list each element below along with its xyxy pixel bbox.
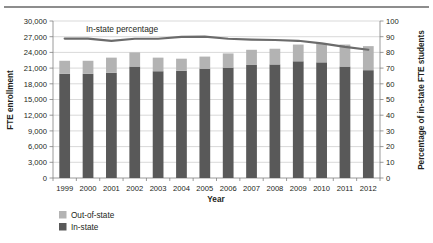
y-tick-label-left: 3,000: [28, 158, 47, 167]
legend-swatch-out-of-state: [59, 211, 67, 219]
right-axis-ticks: 0102030405060708090100: [380, 17, 399, 183]
x-tick-label: 2001: [103, 184, 120, 193]
x-tick-label: 2012: [360, 184, 377, 193]
y-axis-title-left: FTE enrollment: [6, 70, 15, 130]
y-tick-label-left: 9,000: [28, 127, 47, 136]
bar-segment-out-of-state: [153, 58, 164, 72]
y-tick-label-left: 30,000: [24, 17, 47, 26]
bar-segment-out-of-state: [270, 49, 281, 65]
bar-segment-out-of-state: [199, 57, 210, 69]
y-axis-title-right: Percentage of in-state FTE students: [417, 30, 426, 170]
bar-segment-out-of-state: [59, 61, 70, 74]
y-tick-label-right: 60: [386, 80, 394, 89]
y-tick-label-left: 18,000: [24, 80, 47, 89]
bar-segment-out-of-state: [83, 61, 94, 74]
bar-segment-out-of-state: [223, 53, 234, 67]
bar-segment-in-state: [340, 67, 351, 178]
bar-segment-in-state: [293, 61, 304, 178]
y-tick-label-right: 80: [386, 48, 394, 57]
bar-segment-in-state: [59, 74, 70, 178]
bar-segment-in-state: [153, 71, 164, 178]
x-tick-label: 2009: [290, 184, 307, 193]
x-tick-label: 2004: [173, 184, 190, 193]
bar-segment-in-state: [246, 65, 257, 178]
left-axis-ticks: 03,0006,0009,00012,00015,00018,00021,000…: [24, 17, 53, 183]
y-tick-label-right: 10: [386, 158, 394, 167]
bar-segment-out-of-state: [176, 59, 187, 71]
x-axis-ticks: 1999200020012002200320042005200620072008…: [53, 178, 380, 193]
bar-segment-in-state: [199, 69, 210, 178]
bar-segment-out-of-state: [129, 52, 140, 66]
x-axis-title: Year: [207, 195, 225, 204]
chart-legend: Out-of-state In-state: [59, 211, 115, 232]
y-tick-label-left: 24,000: [24, 48, 47, 57]
in-state-percentage-label: In-state percentage: [86, 24, 159, 34]
x-tick-label: 2006: [220, 184, 237, 193]
x-tick-label: 2002: [126, 184, 143, 193]
x-tick-label: 2007: [243, 184, 260, 193]
bar-segment-in-state: [316, 62, 327, 178]
x-tick-label: 2008: [266, 184, 283, 193]
y-tick-label-right: 0: [386, 174, 390, 183]
y-tick-label-left: 27,000: [24, 33, 47, 42]
bar-segment-in-state: [270, 64, 281, 178]
x-tick-label: 2011: [337, 184, 353, 193]
bar-segment-in-state: [83, 74, 94, 178]
y-tick-label-right: 100: [386, 17, 399, 26]
chart-svg: 03,0006,0009,00012,00015,00018,00021,000…: [0, 0, 433, 243]
y-tick-label-right: 40: [386, 111, 394, 120]
legend-label-out-of-state: Out-of-state: [71, 211, 115, 220]
x-tick-label: 2000: [80, 184, 97, 193]
y-tick-label-right: 20: [386, 142, 394, 151]
bar-segment-out-of-state: [293, 45, 304, 62]
y-tick-label-left: 21,000: [24, 64, 47, 73]
x-tick-label: 2003: [150, 184, 167, 193]
x-tick-label: 2010: [313, 184, 330, 193]
y-tick-label-right: 30: [386, 127, 394, 136]
bar-segment-in-state: [363, 70, 374, 178]
x-tick-label: 1999: [56, 184, 73, 193]
bar-segment-out-of-state: [106, 58, 117, 73]
y-tick-label-left: 15,000: [24, 95, 47, 104]
bar-segment-in-state: [176, 71, 187, 178]
bar-segment-in-state: [106, 73, 117, 178]
y-tick-label-right: 90: [386, 33, 394, 42]
y-tick-label-right: 50: [386, 95, 394, 104]
chart-figure: 03,0006,0009,00012,00015,00018,00021,000…: [0, 0, 433, 243]
y-tick-label-right: 70: [386, 64, 394, 73]
y-tick-label-left: 0: [43, 174, 47, 183]
bar-segment-out-of-state: [316, 43, 327, 62]
y-tick-label-left: 6,000: [28, 142, 47, 151]
y-tick-label-left: 12,000: [24, 111, 47, 120]
legend-label-in-state: In-state: [71, 223, 99, 232]
legend-swatch-in-state: [59, 223, 67, 231]
bar-segment-in-state: [129, 67, 140, 178]
x-tick-label: 2005: [196, 184, 213, 193]
bar-segment-out-of-state: [246, 50, 257, 65]
bar-segment-in-state: [223, 68, 234, 178]
